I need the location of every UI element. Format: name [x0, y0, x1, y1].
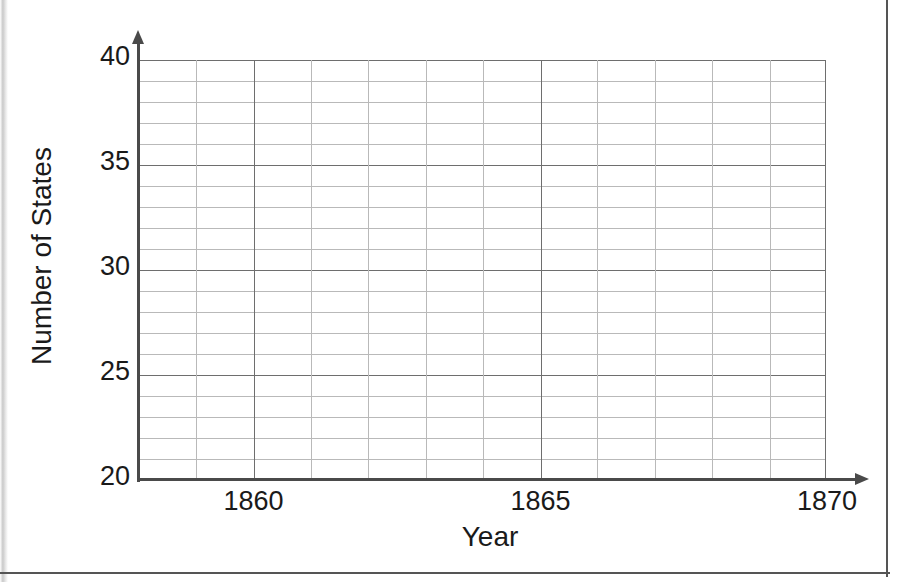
x-axis-line — [137, 478, 859, 481]
x-axis-arrow-icon — [855, 473, 869, 485]
gridline-v-1859 — [196, 60, 197, 480]
page-border-bottom — [0, 572, 890, 574]
y-tick-label-20: 20 — [70, 461, 130, 492]
page-canvas: 40 35 30 25 20 1860 1865 1870 Year Numbe… — [0, 0, 917, 582]
gridline-v-1866 — [597, 60, 598, 480]
x-tick-label-1860: 1860 — [174, 486, 334, 517]
y-tick-label-30: 30 — [70, 251, 130, 282]
page-border-right — [886, 0, 888, 577]
line-graph-empty-grid: 40 35 30 25 20 1860 1865 1870 Year Numbe… — [0, 0, 917, 582]
gridline-v-1863 — [426, 60, 427, 480]
gridline-v-1870 — [825, 60, 826, 480]
x-axis-title: Year — [410, 521, 570, 553]
y-tick-label-35: 35 — [70, 146, 130, 177]
gridline-v-1862 — [368, 60, 369, 480]
gridline-v-1861 — [311, 60, 312, 480]
gridline-v-1864 — [483, 60, 484, 480]
y-tick-label-40: 40 — [70, 41, 130, 72]
x-tick-label-1870: 1870 — [747, 486, 907, 517]
y-axis-title: Number of States — [26, 106, 58, 406]
gridline-v-1869 — [770, 60, 771, 480]
gridline-v-1868 — [712, 60, 713, 480]
x-tick-label-1865: 1865 — [461, 486, 621, 517]
y-axis-arrow-icon — [132, 30, 144, 44]
gridline-v-1860 — [254, 60, 255, 480]
plot-area — [139, 60, 826, 480]
gridline-v-1865 — [541, 60, 542, 480]
y-tick-label-25: 25 — [70, 356, 130, 387]
y-axis-line — [137, 42, 140, 482]
gridline-v-1867 — [655, 60, 656, 480]
